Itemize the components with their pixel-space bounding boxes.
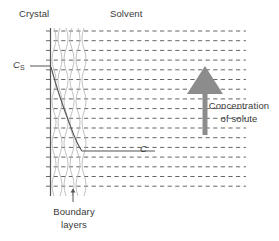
cs-concentration-label: CS [13, 59, 25, 74]
solvent-label: Solvent [110, 8, 142, 20]
boundary-layers-label: Boundarylayers [44, 206, 104, 231]
cs-symbol: C [13, 59, 20, 70]
concentration-profile-diagram: Crystal Solvent CS C Concentrationof sol… [0, 0, 279, 241]
boundary-line-1: Boundary [53, 206, 94, 217]
wave-line [82, 28, 86, 196]
boundary-layer-waves [52, 28, 86, 196]
boundary-line-2: layers [61, 219, 87, 230]
wave-line [70, 28, 74, 196]
wave-line [76, 28, 80, 196]
concentration-of-solute-label: Concentrationof solute [200, 100, 278, 125]
concentration-line-2: of solute [221, 113, 258, 124]
wave-line [52, 28, 56, 196]
wave-line [58, 28, 62, 196]
c-concentration-label: C [140, 143, 147, 155]
crystal-label: Crystal [19, 8, 49, 20]
concentration-line-1: Concentration [209, 100, 269, 111]
cs-subscript: S [20, 64, 25, 71]
